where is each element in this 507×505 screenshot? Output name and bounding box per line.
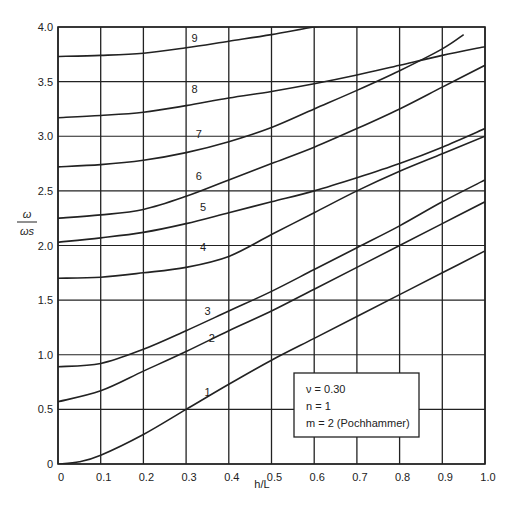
curve-label-7: 7 (196, 128, 202, 140)
x-axis-ticks: 00.10.20.30.40.50.60.70.80.91.0 (58, 471, 496, 483)
x-axis-label: h/L (254, 478, 269, 490)
y-axis-label-denominator: ωs (20, 225, 35, 237)
y-tick-label: 3.0 (38, 130, 53, 142)
dispersion-chart: 123456789 00.10.20.30.40.50.60.70.80.91.… (0, 0, 507, 505)
legend-box: ν = 0.30 n = 1 m = 2 (Pochhammer) (294, 373, 419, 437)
curve-label-6: 6 (196, 170, 202, 182)
curve-label-2: 2 (209, 332, 215, 344)
y-tick-label: 2.0 (38, 240, 53, 252)
x-tick-label: 0.4 (224, 471, 239, 483)
legend-n: n = 1 (306, 400, 331, 412)
x-tick-label: 0.8 (395, 471, 410, 483)
curve-label-1: 1 (204, 386, 210, 398)
x-tick-label: 0.9 (438, 471, 453, 483)
y-axis-ticks: 00.51.01.52.02.53.03.54.0 (38, 21, 53, 470)
y-axis-label-numerator: ω (23, 208, 32, 220)
y-tick-label: 1.5 (38, 294, 53, 306)
curve-label-3: 3 (204, 305, 210, 317)
y-tick-label: 1.0 (38, 349, 53, 361)
x-tick-label: 0 (58, 471, 64, 483)
curve-label-9: 9 (192, 32, 198, 44)
grid-lines (58, 27, 485, 464)
x-tick-label: 0.2 (139, 471, 154, 483)
y-tick-label: 3.5 (38, 76, 53, 88)
curve-label-8: 8 (192, 83, 198, 95)
y-tick-label: 0 (47, 458, 53, 470)
x-tick-label: 0.7 (352, 471, 367, 483)
x-tick-label: 0.6 (310, 471, 325, 483)
legend-poisson-ratio: ν = 0.30 (306, 383, 345, 395)
y-axis-label: ω ωs (17, 208, 37, 237)
x-tick-label: 0.1 (96, 471, 111, 483)
x-tick-label: 0.3 (181, 471, 196, 483)
curve-label-4: 4 (200, 241, 206, 253)
y-tick-label: 4.0 (38, 21, 53, 33)
legend-m: m = 2 (Pochhammer) (306, 417, 410, 429)
x-tick-label: 1.0 (480, 471, 495, 483)
y-tick-label: 2.5 (38, 185, 53, 197)
y-tick-label: 0.5 (38, 403, 53, 415)
curve-label-5: 5 (200, 201, 206, 213)
